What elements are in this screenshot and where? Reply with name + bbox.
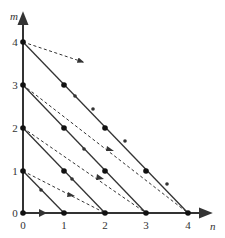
- y-tick-4: 4: [12, 36, 18, 48]
- x-tick-labels: 0 1 2 3 4: [20, 219, 191, 231]
- x-tick-2: 2: [102, 219, 108, 231]
- x-tick-4: 4: [185, 219, 191, 231]
- x-tick-3: 3: [143, 219, 149, 231]
- y-axis-label: m: [10, 10, 18, 22]
- solid-line-arrow-marks: [39, 94, 169, 192]
- y-tick-labels: 0 1 2 3 4: [12, 36, 18, 219]
- y-tick-3: 3: [12, 79, 18, 91]
- y-tick-0: 0: [12, 207, 18, 219]
- lattice-diagram: 0 1 2 3 4 0 1 2 3 4 n m: [0, 0, 225, 238]
- y-tick-2: 2: [12, 122, 18, 134]
- x-axis-mid-arrow-icon: [39, 209, 47, 217]
- y-tick-1: 1: [12, 165, 18, 177]
- axes: [23, 14, 210, 217]
- x-tick-0: 0: [20, 219, 26, 231]
- x-tick-1: 1: [61, 219, 67, 231]
- x-axis-label: n: [210, 220, 216, 232]
